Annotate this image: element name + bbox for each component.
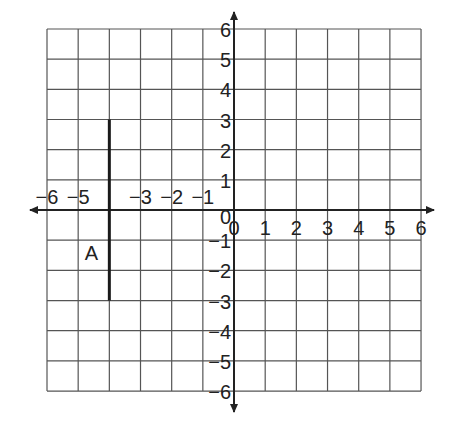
y-tick-label: −4 xyxy=(208,321,231,343)
x-tick-label: −1 xyxy=(191,186,214,208)
y-tick-label: 1 xyxy=(220,170,231,192)
y-tick-label: 0 xyxy=(220,206,231,228)
axes xyxy=(30,12,434,412)
y-tick-label: 2 xyxy=(220,140,231,162)
y-tick-label: −1 xyxy=(208,230,231,252)
x-tick-label: 3 xyxy=(322,217,333,239)
x-axis-tick-labels: −6−5−3−2−10123456 xyxy=(36,186,427,239)
x-tick-label: 1 xyxy=(260,217,271,239)
y-tick-label: −6 xyxy=(208,381,231,403)
y-tick-label: 4 xyxy=(220,79,231,101)
y-tick-label: 6 xyxy=(220,19,231,41)
y-tick-label: −5 xyxy=(208,351,231,373)
x-tick-label: −5 xyxy=(67,186,90,208)
x-tick-label: 5 xyxy=(384,217,395,239)
x-tick-label: −6 xyxy=(36,186,59,208)
coordinate-plane: −6−5−3−2−10123456 6543210−1−2−3−4−5−6 A xyxy=(0,0,460,438)
y-tick-label: −3 xyxy=(208,291,231,313)
y-tick-label: 5 xyxy=(220,49,231,71)
segment-label: A xyxy=(85,242,99,264)
x-tick-label: 2 xyxy=(291,217,302,239)
x-tick-label: 6 xyxy=(415,217,426,239)
x-tick-label: −3 xyxy=(129,186,152,208)
y-tick-label: 3 xyxy=(220,110,231,132)
y-tick-label: −2 xyxy=(208,260,231,282)
x-tick-label: −2 xyxy=(160,186,183,208)
x-tick-label: 4 xyxy=(353,217,364,239)
